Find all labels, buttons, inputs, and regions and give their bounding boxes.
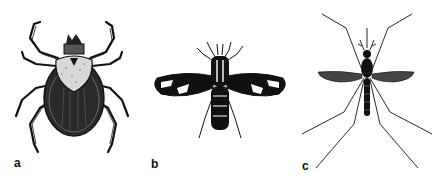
panel-label-c: c: [302, 160, 309, 172]
mosquito-illustration: [300, 0, 446, 178]
panel-label-b: b: [151, 158, 158, 170]
panel-label-a: a: [14, 157, 21, 169]
panel-c: c: [300, 0, 446, 178]
panel-b: b: [145, 0, 300, 178]
panel-a: a: [0, 0, 145, 178]
fly-illustration: [145, 0, 300, 178]
figure: a: [0, 0, 446, 178]
tick-illustration: [0, 0, 145, 178]
